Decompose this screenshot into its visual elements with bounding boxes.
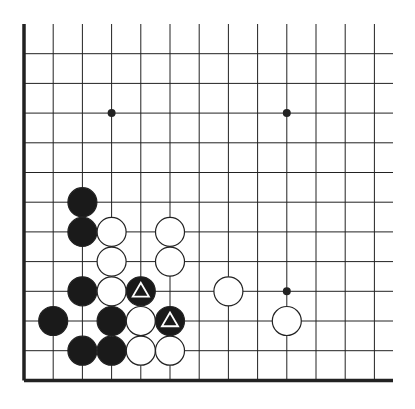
black-stone	[68, 336, 97, 365]
white-stone	[97, 247, 126, 276]
white-stone	[156, 217, 185, 246]
black-stone	[68, 277, 97, 306]
stone-disc	[97, 307, 126, 336]
stone-disc	[97, 247, 126, 276]
white-stone	[214, 277, 243, 306]
stone-disc	[214, 277, 243, 306]
stone-disc	[68, 217, 97, 246]
star-point	[283, 109, 291, 117]
stone-disc	[126, 307, 155, 336]
go-board	[0, 0, 415, 409]
stone-disc	[156, 247, 185, 276]
stone-disc	[272, 307, 301, 336]
black-stone	[68, 217, 97, 246]
white-stone	[156, 336, 185, 365]
stone-disc	[97, 217, 126, 246]
stone-disc	[126, 336, 155, 365]
stone-disc	[39, 307, 68, 336]
white-stone	[272, 307, 301, 336]
white-stone	[97, 217, 126, 246]
stone-disc	[68, 336, 97, 365]
white-stone	[126, 336, 155, 365]
star-point	[108, 109, 116, 117]
white-stone	[97, 277, 126, 306]
black-stone	[97, 307, 126, 336]
stone-disc	[156, 217, 185, 246]
stone-disc	[68, 188, 97, 217]
black-stone	[126, 277, 155, 306]
black-stone	[97, 336, 126, 365]
black-stone	[39, 307, 68, 336]
stone-disc	[97, 336, 126, 365]
white-stone	[126, 307, 155, 336]
stone-disc	[156, 336, 185, 365]
white-stone	[156, 247, 185, 276]
star-point	[283, 287, 291, 295]
black-stone	[68, 188, 97, 217]
stone-disc	[97, 277, 126, 306]
black-stone	[156, 307, 185, 336]
stone-disc	[68, 277, 97, 306]
